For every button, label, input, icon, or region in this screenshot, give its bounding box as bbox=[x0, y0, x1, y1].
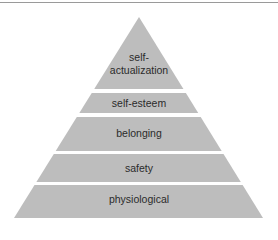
label-safety: safety bbox=[0, 162, 278, 175]
label-physiological: physiological bbox=[0, 193, 278, 206]
label-self-actualization-line2: actualization bbox=[0, 64, 278, 77]
label-belonging: belonging bbox=[0, 127, 278, 140]
label-self-actualization-line1: self- bbox=[0, 51, 278, 64]
label-self-esteem: self-esteem bbox=[0, 97, 278, 110]
